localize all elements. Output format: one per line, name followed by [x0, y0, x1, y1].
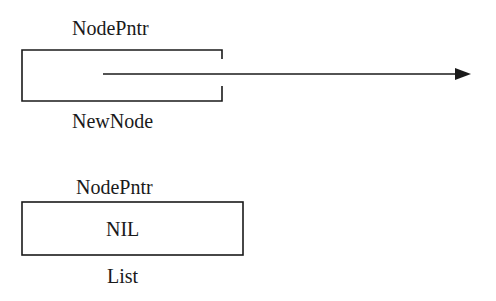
list-type-label: NodePntr: [76, 177, 153, 197]
newnode-type-label: NodePntr: [72, 18, 149, 38]
newnode-box: [22, 50, 222, 101]
arrowhead-icon: [455, 68, 471, 80]
diagram-canvas: [0, 0, 496, 301]
list-name-label: List: [107, 266, 138, 286]
list-content-nil: NIL: [106, 219, 139, 239]
newnode-name-label: NewNode: [72, 111, 153, 131]
